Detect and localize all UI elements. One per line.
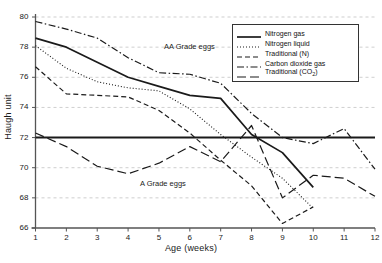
legend-key-icon — [236, 48, 262, 58]
x-tick-label: 5 — [152, 233, 166, 242]
legend-key-icon — [236, 58, 262, 68]
y-tick-label: 70 — [7, 163, 29, 172]
x-tick-label: 6 — [183, 233, 197, 242]
y-tick-label: 74 — [7, 102, 29, 111]
legend-item: Carbon dioxide gas — [236, 58, 354, 68]
y-tick-label: 76 — [7, 72, 29, 81]
legend-item: Nitrogen gas — [236, 28, 354, 38]
x-tick-label: 1 — [29, 233, 43, 242]
chart-legend: Nitrogen gasNitrogen liquidTraditional (… — [232, 24, 359, 82]
x-tick-label: 7 — [214, 233, 228, 242]
y-tick-label: 66 — [7, 223, 29, 232]
x-tick-label: 8 — [245, 233, 259, 242]
x-tick-label: 12 — [368, 233, 382, 242]
y-tick-label: 72 — [7, 133, 29, 142]
legend-item: Traditional (N) — [236, 48, 354, 58]
x-tick-label: 4 — [121, 233, 135, 242]
x-tick-label: 9 — [275, 233, 289, 242]
x-tick-label: 10 — [306, 233, 320, 242]
x-tick-label: 3 — [90, 233, 104, 242]
y-tick-label: 80 — [7, 12, 29, 21]
y-tick-label: 68 — [7, 193, 29, 202]
y-tick-label: 78 — [7, 42, 29, 51]
legend-item-label: Nitrogen liquid — [262, 40, 310, 47]
series-line-4 — [36, 126, 376, 198]
legend-item-label: Traditional (CO2) — [262, 68, 318, 77]
legend-key-icon — [236, 38, 262, 48]
legend-item-label: Traditional (N) — [262, 50, 309, 57]
chart-container: Age (weeks) Haugh unit 6668707274767880 … — [0, 0, 382, 263]
annotation-a-grade: A Grade eggs — [140, 179, 186, 188]
legend-item: Traditional (CO2) — [236, 68, 354, 78]
legend-key-icon — [236, 28, 262, 38]
annotation-aa-grade: AA Grade eggs — [164, 42, 215, 51]
x-tick-label: 2 — [59, 233, 73, 242]
legend-key-icon — [236, 68, 262, 78]
legend-item-label: Nitrogen gas — [262, 30, 305, 37]
legend-item: Nitrogen liquid — [236, 38, 354, 48]
x-tick-label: 11 — [337, 233, 351, 242]
x-axis-title: Age (weeks) — [0, 243, 382, 253]
legend-item-label: Carbon dioxide gas — [262, 60, 325, 67]
